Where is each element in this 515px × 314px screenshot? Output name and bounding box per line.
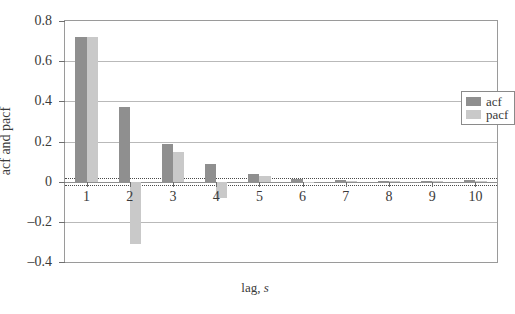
bar-pacf-lag-1: [87, 37, 98, 182]
x-axis-tick-label: 5: [256, 190, 263, 204]
y-axis-tick-label: –0.4: [0, 255, 52, 269]
bar-pacf-lag-5: [259, 176, 270, 182]
bar-pacf-lag-9: [432, 181, 443, 182]
y-axis-tick: [59, 21, 65, 22]
x-axis-tick: [259, 182, 260, 187]
y-axis-tick: [59, 61, 65, 62]
y-axis-tick-label: 0.6: [0, 54, 52, 68]
bar-acf-lag-10: [464, 180, 475, 181]
y-axis-tick: [59, 101, 65, 102]
x-axis-tick: [432, 182, 433, 187]
x-axis-tick: [346, 182, 347, 187]
x-axis-tick-label: 2: [126, 190, 133, 204]
legend-item-pacf: pacf: [466, 108, 508, 121]
bar-pacf-lag-3: [173, 152, 184, 182]
bar-pacf-lag-10: [475, 181, 486, 182]
y-axis-tick-label: –0.2: [0, 215, 52, 229]
x-axis-tick-label: 4: [213, 190, 220, 204]
confidence-band-line: [65, 178, 497, 179]
x-axis-tick: [87, 182, 88, 187]
legend-label: pacf: [486, 108, 508, 121]
x-axis-tick-label: 1: [83, 190, 90, 204]
bar-acf-lag-1: [75, 37, 86, 182]
bar-acf-lag-9: [421, 181, 432, 182]
bar-acf-lag-7: [335, 180, 346, 182]
x-axis-tick-label: 10: [468, 190, 482, 204]
legend-swatch-icon: [466, 110, 481, 119]
y-axis-tick: [59, 222, 65, 223]
bar-acf-lag-2: [119, 107, 130, 181]
x-axis-tick: [173, 182, 174, 187]
bar-acf-lag-5: [248, 174, 259, 182]
x-axis-tick: [389, 182, 390, 187]
y-axis-tick-label: 0.2: [0, 135, 52, 149]
y-axis-tick-label: 0.4: [0, 94, 52, 108]
bar-pacf-lag-7: [346, 181, 357, 182]
y-axis-tick-label: 0.8: [0, 14, 52, 28]
legend-swatch-icon: [466, 97, 481, 106]
chart-legend: acf pacf: [461, 91, 515, 125]
bar-pacf-lag-8: [389, 181, 400, 182]
x-axis-tick: [475, 182, 476, 187]
x-axis-title-symbol: s: [264, 280, 269, 295]
gridline: [65, 61, 497, 62]
x-axis-title: lag, s: [241, 280, 268, 296]
bar-acf-lag-8: [378, 181, 389, 182]
y-axis-tick: [59, 262, 65, 263]
y-axis-tick-label: 0: [0, 175, 52, 189]
x-axis-tick: [216, 182, 217, 187]
x-axis-tick-label: 9: [429, 190, 436, 204]
bar-acf-lag-6: [291, 179, 302, 182]
plot-area: acf pacf: [64, 20, 498, 263]
x-axis-tick-label: 7: [342, 190, 349, 204]
bar-acf-lag-4: [205, 164, 216, 182]
x-axis-tick-label: 8: [386, 190, 393, 204]
x-axis-tick-label: 6: [299, 190, 306, 204]
x-axis-tick: [303, 182, 304, 187]
bar-pacf-lag-6: [303, 182, 314, 183]
x-axis-tick: [130, 182, 131, 187]
bar-acf-lag-3: [162, 144, 173, 182]
gridline: [65, 101, 497, 102]
x-axis-tick-label: 3: [170, 190, 177, 204]
x-axis-title-text: lag,: [241, 280, 260, 295]
y-axis-tick: [59, 142, 65, 143]
y-axis-tick: [59, 182, 65, 183]
gridline: [65, 142, 497, 143]
